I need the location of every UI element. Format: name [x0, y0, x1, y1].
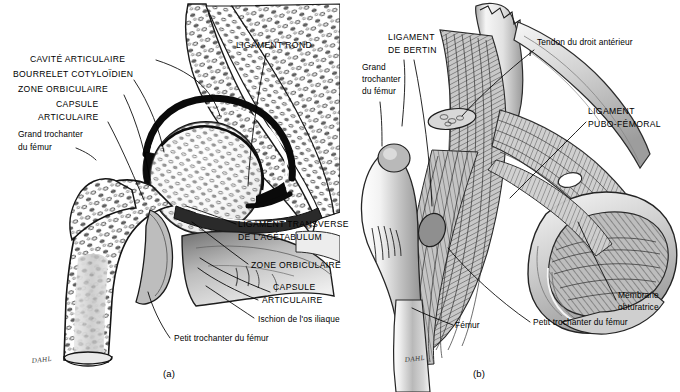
- label-zone-orbiculaire-top: ZONE ORBICULAIRE: [18, 84, 108, 94]
- trochanter-highlight: [383, 148, 397, 160]
- panel-letter-b: (b): [473, 368, 485, 379]
- label-grand-trochanter-b-line1: Grand: [362, 62, 386, 72]
- label-capsule-top-line1: CAPSULE: [56, 99, 99, 109]
- medullary-trabeculae: [74, 254, 108, 357]
- label-ligament-bertin-line2: DE BERTIN: [388, 45, 437, 55]
- label-ligament-transverse-line2: DE L'ACÉTABULUM: [238, 232, 322, 242]
- label-petit-trochanter-b: Petit trochanter du fémur: [533, 317, 628, 327]
- panel-letter-a: (a): [163, 368, 175, 379]
- label-ligament-pubo-femoral-l1: LIGAMENT: [588, 106, 635, 116]
- label-grand-trochanter-b-line3: du fémur: [362, 86, 396, 96]
- label-ligament-transverse-line1: LIGAMENT TRANSVERSE: [238, 219, 349, 229]
- label-grand-trochanter-a-line2: du fémur: [18, 142, 52, 152]
- anatomy-figure: DAHL DAHL CAVITÉ ARTICULAIRE BOURRELET C…: [0, 0, 680, 392]
- label-membrane-obturatrice-l2: obturatrice: [618, 302, 659, 312]
- label-ligament-pubo-femoral-l2: PUBO-FÉMORAL: [588, 119, 661, 129]
- femur-cut-end: [64, 352, 112, 364]
- label-ischion-os-iliaque: Ischion de l'os iliaque: [258, 314, 340, 324]
- label-capsule-top-line2: ARTICULAIRE: [38, 112, 99, 122]
- label-grand-trochanter-b-line2: trochanter: [362, 74, 401, 84]
- label-capsule-lower-line1: CAPSULE: [273, 282, 316, 292]
- label-grand-trochanter-a-line1: Grand trochanter: [18, 129, 83, 139]
- label-ligament-rond: LIGAMENT ROND: [236, 40, 312, 50]
- label-zone-orbiculaire-lower: ZONE ORBICULAIRE: [251, 260, 341, 270]
- label-petit-trochanter-a: Petit trochanter du fémur: [174, 333, 269, 343]
- label-bourrelet-cotyloidien: BOURRELET COTYLOÏDIEN: [13, 69, 133, 79]
- label-capsule-lower-line2: ARTICULAIRE: [262, 295, 323, 305]
- figure-canvas: DAHL DAHL CAVITÉ ARTICULAIRE BOURRELET C…: [0, 0, 680, 392]
- label-femur-b: Fémur: [455, 320, 480, 330]
- label-membrane-obturatrice-l1: Membrane: [618, 290, 659, 300]
- label-tendon-droit-anterieur: Tendon du droit antérieur: [537, 37, 633, 47]
- label-ligament-bertin-line1: LIGAMENT: [388, 32, 435, 42]
- label-cavite-articulaire: CAVITÉ ARTICULAIRE: [30, 54, 125, 64]
